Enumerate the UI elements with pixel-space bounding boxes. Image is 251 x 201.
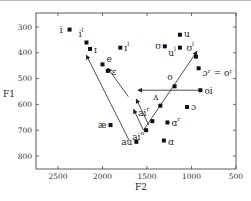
data-point-label: ɑ [168,137,174,147]
data-point-label: il [79,26,84,39]
data-point-marker [194,55,198,59]
y-tick-label: 600 [18,100,33,109]
data-point-label: o [167,72,172,82]
data-point-marker [178,33,182,37]
data-point-marker [163,44,167,48]
data-point-label: ɪl [124,40,129,53]
data-point-marker [173,84,177,88]
data-point-label: i [60,25,63,35]
data-point-marker [178,46,182,50]
x-tick-label: 2000 [93,172,112,181]
y-tick-label: 500 [18,74,33,83]
y-tick-label: 300 [18,23,33,32]
data-point-label: ɔʳ = oʳ [203,68,233,78]
data-point-marker [198,88,202,92]
axis-ticks: 2500200015001000500300400500600700800 [18,13,244,181]
data-point-label: ʊ [155,41,161,51]
data-point-label: ɔ [191,102,196,112]
data-point-marker [84,40,88,44]
vowel-formant-chart: 2500200015001000500300400500600700800 ii… [0,0,251,201]
x-tick-label: 1000 [182,172,201,181]
x-tick-label: 500 [229,172,244,181]
data-point-label: ɛ [112,67,117,77]
data-point-label: aio [132,129,144,142]
data-point-label: e [107,54,112,64]
data-point-marker [101,62,105,66]
data-point-marker [144,128,148,132]
y-tick-label: 800 [18,152,33,161]
data-point-marker [165,120,169,124]
data-point-marker [197,66,201,70]
data-point-label: oi [204,86,212,96]
x-tick-label: 2500 [48,172,67,181]
arrow [143,52,196,131]
data-point-marker [118,46,122,50]
arrow [86,55,129,140]
data-point-marker [109,123,113,127]
y-axis-title: F1 [3,89,15,99]
x-axis-title: F2 [135,182,147,192]
data-point-marker [162,139,166,143]
data-point-label: ʊl [186,40,194,53]
data-point-label: ul [168,45,176,58]
data-point-marker [150,119,154,123]
data-point-label: ɪ [94,45,97,55]
data-point-marker [185,105,189,109]
data-points: iilɪɪleɛuʊulʊlɔʳ = oʳooiæʌɔairɑraioauɑ [60,25,233,147]
data-point-marker [106,69,110,73]
data-point-label: au [121,137,132,147]
data-point-marker [88,47,92,51]
data-point-label: u [184,29,190,39]
y-tick-label: 700 [18,126,33,135]
data-point-label: æ [98,120,106,130]
x-tick-label: 1500 [137,172,156,181]
data-point-marker [68,28,72,32]
data-point-marker [134,140,138,144]
y-tick-label: 400 [18,48,33,57]
data-point-marker [158,104,162,108]
data-point-label: ʌ [152,92,159,102]
data-point-label: ɑr [171,115,180,128]
